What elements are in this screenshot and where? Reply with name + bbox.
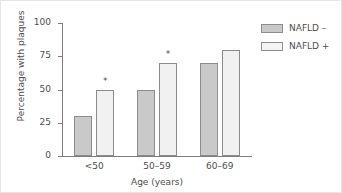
bar [159, 63, 177, 156]
significance-asterisk: * [160, 50, 176, 59]
bar-chart-figure: 0255075100 ** <5050–5960–69 Age (years) … [0, 0, 342, 193]
legend-item: NAFLD + [261, 39, 329, 53]
bar [74, 116, 92, 156]
x-axis-line [62, 156, 252, 157]
legend-label: NAFLD – [289, 24, 326, 33]
bar [222, 50, 240, 156]
plot-area: ** [63, 23, 251, 156]
legend: NAFLD –NAFLD + [261, 21, 329, 57]
legend-swatch [261, 42, 283, 51]
y-axis-tick-mark [58, 56, 62, 57]
x-axis-tick-label: 50–59 [127, 161, 187, 171]
x-axis-title: Age (years) [63, 177, 251, 187]
y-axis-tick-mark [58, 90, 62, 91]
significance-asterisk: * [97, 77, 113, 86]
x-axis-tick-label: <50 [64, 161, 124, 171]
legend-item: NAFLD – [261, 21, 329, 35]
legend-label: NAFLD + [289, 42, 329, 51]
y-axis-tick-mark [58, 123, 62, 124]
bar [137, 90, 155, 157]
y-axis-title: Percentage with plaques [16, 2, 26, 130]
y-axis-tick-mark [58, 23, 62, 24]
y-axis-tick-mark [58, 156, 62, 157]
bar [200, 63, 218, 156]
legend-swatch [261, 24, 283, 33]
bar [96, 90, 114, 157]
x-axis-tick-label: 60–69 [190, 161, 250, 171]
y-axis-tick-label: 0 [11, 151, 51, 160]
